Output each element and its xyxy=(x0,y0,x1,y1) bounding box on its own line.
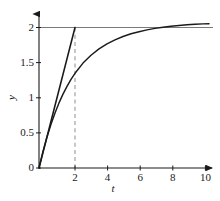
y-tick-label-0_5: 0.5 xyxy=(10,127,34,138)
y-tick-label-0: 0 xyxy=(10,162,34,173)
initial-tangent-line xyxy=(39,28,75,169)
x-tick-label-10: 10 xyxy=(195,172,215,183)
x-tick-label-6: 6 xyxy=(130,172,150,183)
exponential-rise-curve xyxy=(39,24,209,168)
x-axis-title: t xyxy=(106,183,120,194)
y-axis-title: y xyxy=(6,91,17,105)
y-tick-label-1_5: 1.5 xyxy=(10,57,34,68)
x-tick-label-8: 8 xyxy=(163,172,183,183)
y-tick-label-2: 2 xyxy=(10,22,34,33)
figure-container: 2 1.5 1 0.5 0 2 4 6 8 10 y t xyxy=(0,0,220,201)
x-tick-label-2: 2 xyxy=(65,172,85,183)
